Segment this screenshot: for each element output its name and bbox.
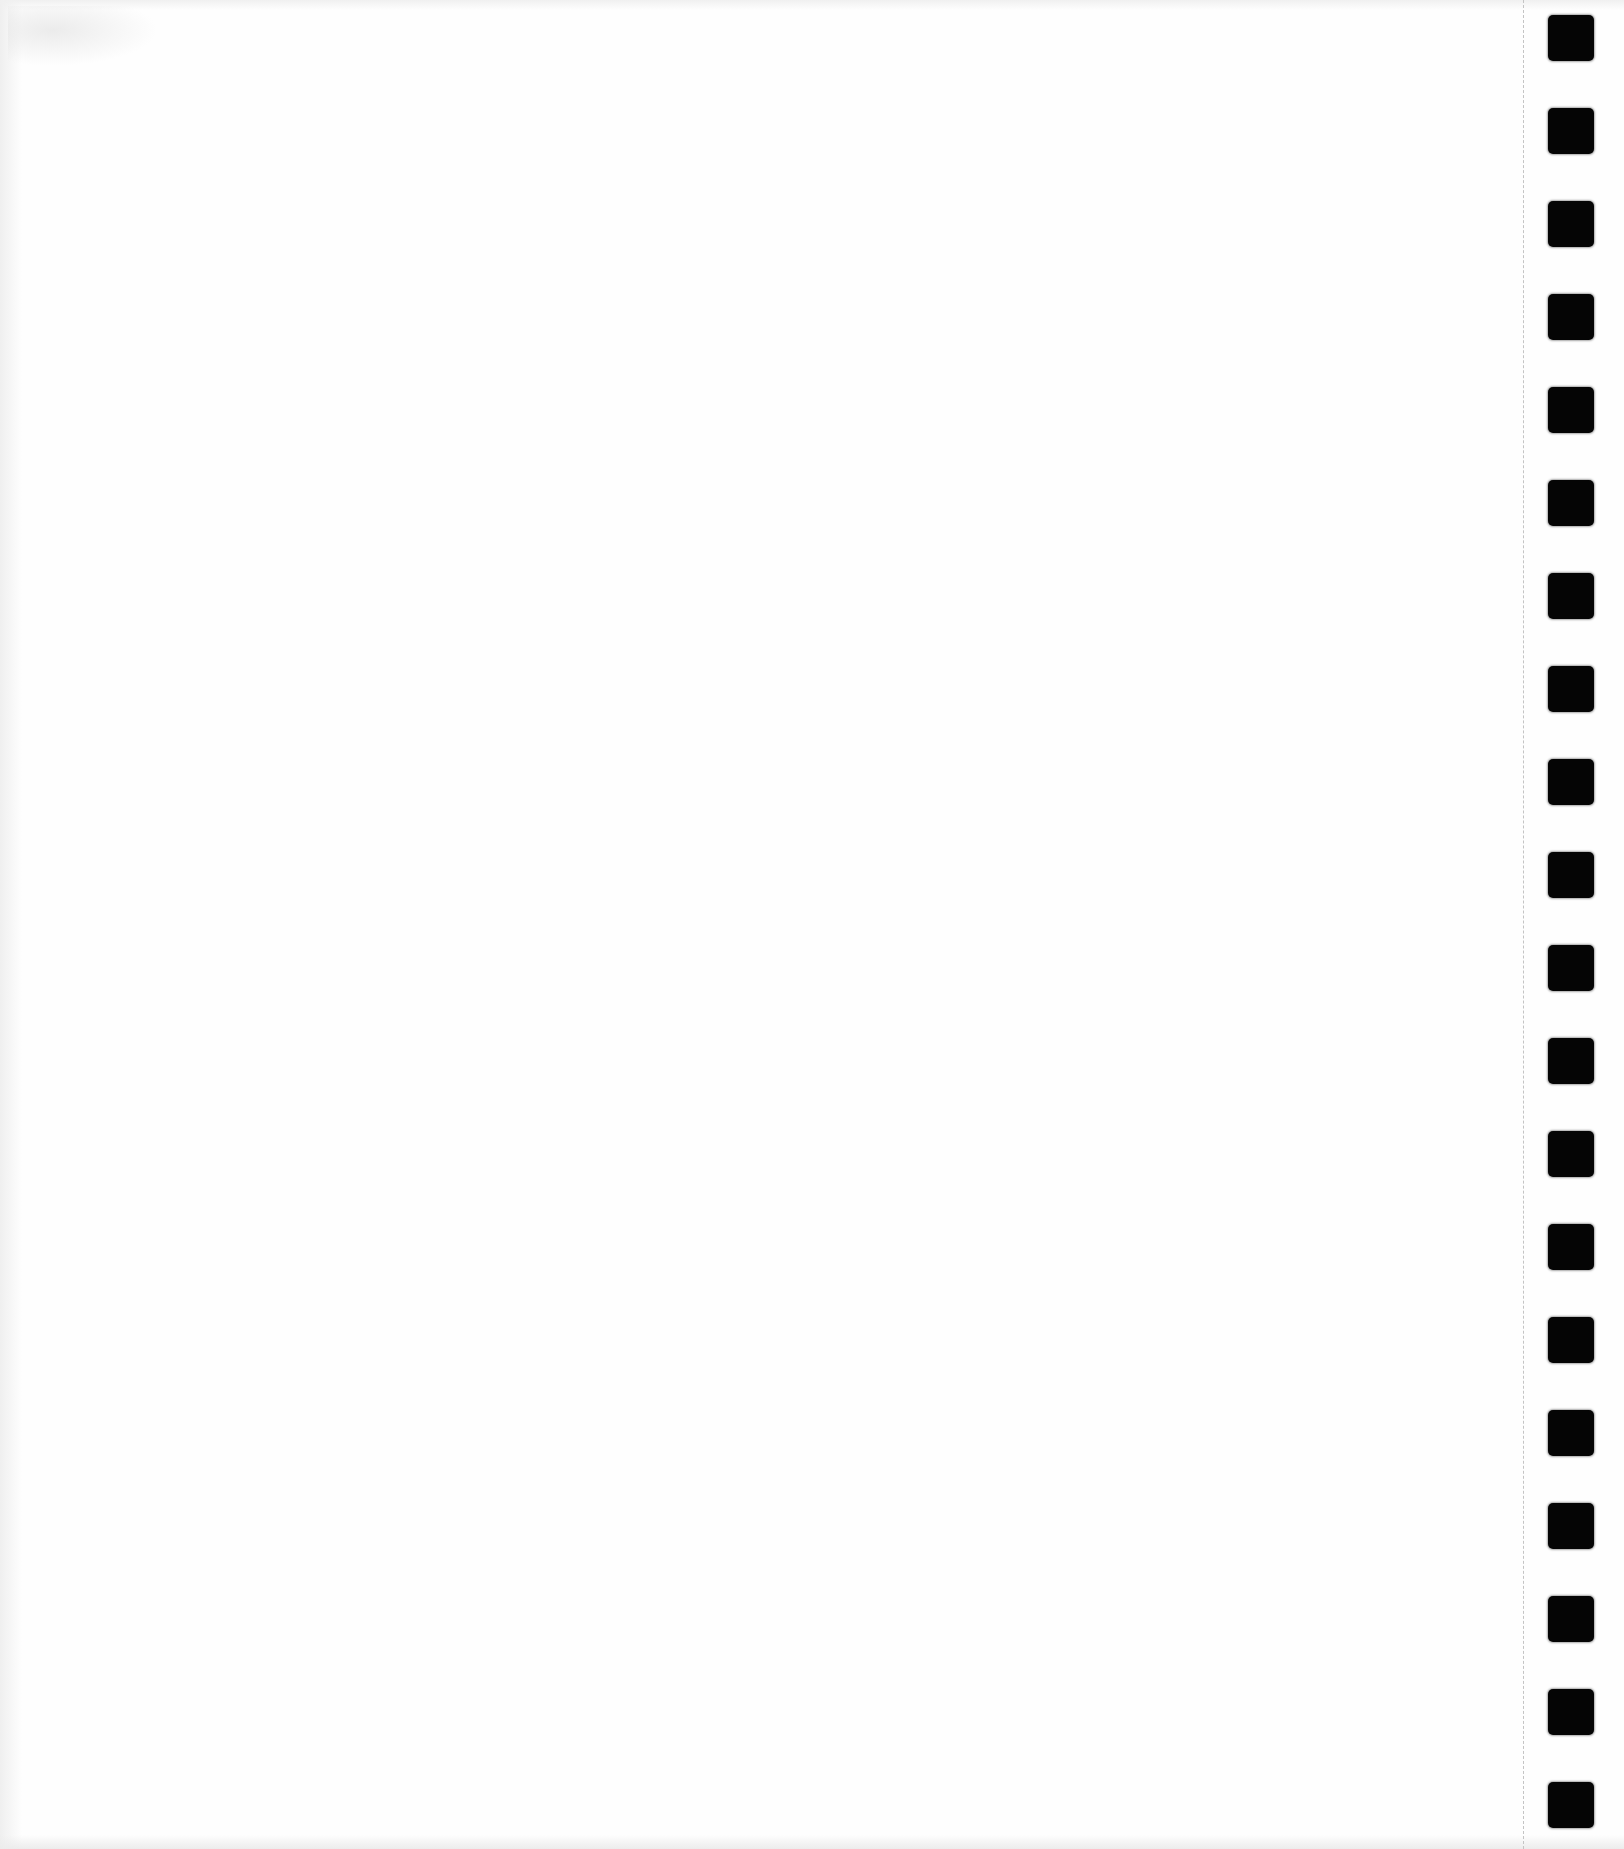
- registration-mark: [1548, 387, 1594, 433]
- registration-mark: [1548, 15, 1594, 61]
- registration-mark: [1548, 1596, 1594, 1642]
- registration-mark: [1548, 852, 1594, 898]
- scanned-page: [0, 0, 1624, 1849]
- registration-mark: [1548, 1503, 1594, 1549]
- registration-mark: [1548, 1224, 1594, 1270]
- registration-mark: [1548, 1317, 1594, 1363]
- registration-mark-column: [0, 0, 1624, 1849]
- registration-mark: [1548, 945, 1594, 991]
- registration-mark: [1548, 1038, 1594, 1084]
- registration-mark: [1548, 573, 1594, 619]
- registration-mark: [1548, 759, 1594, 805]
- registration-mark: [1548, 1689, 1594, 1735]
- registration-mark: [1548, 666, 1594, 712]
- registration-mark: [1548, 1410, 1594, 1456]
- registration-mark: [1548, 480, 1594, 526]
- registration-mark: [1548, 201, 1594, 247]
- registration-mark: [1548, 1131, 1594, 1177]
- registration-mark: [1548, 108, 1594, 154]
- registration-mark: [1548, 1782, 1594, 1828]
- registration-mark: [1548, 294, 1594, 340]
